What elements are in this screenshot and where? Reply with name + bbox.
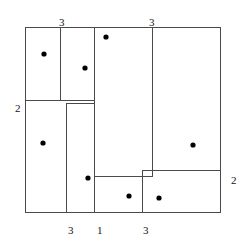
point-6: [85, 175, 90, 180]
label-bottom-left: 3: [68, 225, 74, 236]
label-right: 2: [231, 175, 237, 186]
point-8: [156, 195, 161, 200]
point-1: [41, 51, 46, 56]
label-top-right: 3: [149, 17, 155, 28]
label-bottom-right: 3: [143, 225, 149, 236]
marked-points-group: [40, 34, 195, 200]
rectangle-partition-figure: 3322313: [0, 0, 241, 239]
point-7: [126, 193, 131, 198]
label-bottom-mid: 1: [97, 225, 103, 236]
point-3: [103, 34, 108, 39]
label-top-left: 3: [59, 17, 65, 28]
point-5: [190, 142, 195, 147]
partition-lines-group: [26, 28, 221, 213]
partition-diagram-svg: [0, 0, 241, 239]
point-2: [82, 65, 87, 70]
label-left: 2: [15, 103, 21, 114]
point-4: [40, 140, 45, 145]
